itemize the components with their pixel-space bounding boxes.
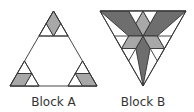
block-b-label: Block B (121, 95, 166, 109)
block-a-label: Block A (31, 95, 76, 109)
block-b (100, 11, 186, 86)
quilt-block-diagram: Block A Block B (0, 0, 194, 112)
block-a (10, 11, 97, 86)
